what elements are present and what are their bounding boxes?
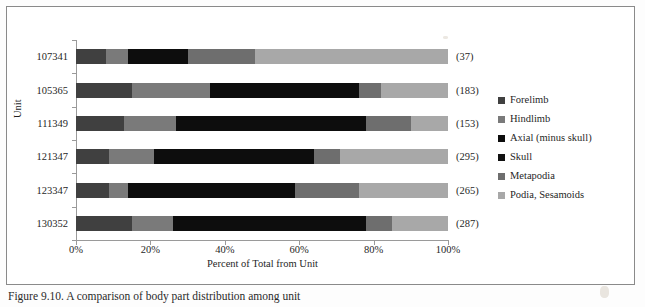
bar-count-label: (265)	[456, 185, 479, 196]
bar-segment[interactable]	[255, 49, 448, 64]
bar-segment[interactable]	[366, 116, 411, 131]
bar-segment[interactable]	[359, 83, 381, 98]
scan-artifact	[600, 286, 609, 298]
bar-segment[interactable]	[359, 183, 448, 198]
bar-count-label: (37)	[456, 51, 474, 62]
legend-item[interactable]: Hindlimb	[498, 113, 636, 125]
bar-segment[interactable]	[109, 149, 154, 164]
figure-page: 107341105365111349121347123347130352 (37…	[0, 0, 645, 307]
legend-label: Skull	[510, 151, 532, 163]
x-axis-tick-label: 100%	[426, 244, 470, 255]
bar-count-label: (183)	[456, 85, 479, 96]
y-axis-label: 111349	[0, 118, 68, 129]
legend-label: Axial (minus skull)	[510, 132, 592, 144]
bar-row	[76, 149, 448, 164]
y-axis-label: 130352	[0, 218, 68, 229]
bar-segment[interactable]	[124, 116, 176, 131]
y-axis-label: 123347	[0, 185, 68, 196]
bar-row	[76, 183, 448, 198]
bar-segment[interactable]	[411, 116, 448, 131]
bar-segment[interactable]	[366, 216, 392, 231]
bar-row	[76, 116, 448, 131]
bar-segment[interactable]	[132, 83, 210, 98]
chart-legend: ForelimbHindlimbAxial (minus skull)Skull…	[498, 94, 636, 208]
bar-row	[76, 216, 448, 231]
legend-swatch-icon	[498, 116, 505, 123]
bar-segment[interactable]	[106, 49, 128, 64]
legend-swatch-icon	[498, 192, 505, 199]
bar-row	[76, 83, 448, 98]
bar-segment[interactable]	[76, 116, 124, 131]
legend-item[interactable]: Skull	[498, 151, 636, 163]
legend-swatch-icon	[498, 135, 505, 142]
x-axis-title: Percent of Total from Unit	[76, 258, 449, 269]
bar-segment[interactable]	[188, 49, 255, 64]
bar-segment[interactable]	[210, 83, 359, 98]
bar-row	[76, 49, 448, 64]
legend-item[interactable]: Metapodia	[498, 170, 636, 182]
bar-segment[interactable]	[76, 83, 132, 98]
y-axis-label: 121347	[0, 151, 68, 162]
y-axis-label: 105365	[0, 85, 68, 96]
legend-item[interactable]: Podia, Sesamoids	[498, 189, 636, 201]
bar-segment[interactable]	[76, 183, 109, 198]
legend-label: Podia, Sesamoids	[510, 189, 584, 201]
bar-segment[interactable]	[340, 149, 448, 164]
x-axis-tick-label: 0%	[54, 244, 98, 255]
bar-count-label: (287)	[456, 218, 479, 229]
figure-caption: Figure 9.10. A comparison of body part d…	[8, 290, 628, 303]
legend-swatch-icon	[498, 154, 505, 161]
x-axis-tick-label: 60%	[277, 244, 321, 255]
bar-count-label: (295)	[456, 151, 479, 162]
bar-segment[interactable]	[76, 49, 106, 64]
scan-artifact	[443, 36, 448, 39]
bar-segment[interactable]	[128, 49, 188, 64]
bar-segment[interactable]	[132, 216, 173, 231]
bar-segment[interactable]	[392, 216, 448, 231]
legend-label: Hindlimb	[510, 113, 550, 125]
bar-segment[interactable]	[76, 149, 109, 164]
bar-segment[interactable]	[176, 116, 366, 131]
x-axis-tick-label: 40%	[203, 244, 247, 255]
legend-item[interactable]: Forelimb	[498, 94, 636, 106]
bar-segment[interactable]	[154, 149, 314, 164]
legend-swatch-icon	[498, 97, 505, 104]
y-axis-title: Unit	[12, 99, 23, 118]
bar-segment[interactable]	[109, 183, 128, 198]
bar-segment[interactable]	[76, 216, 132, 231]
y-axis-label: 107341	[0, 51, 68, 62]
legend-item[interactable]: Axial (minus skull)	[498, 132, 636, 144]
legend-label: Metapodia	[510, 170, 555, 182]
x-axis-tick-label: 80%	[352, 244, 396, 255]
bar-segment[interactable]	[381, 83, 448, 98]
x-axis-line	[76, 240, 449, 241]
bar-segment[interactable]	[314, 149, 340, 164]
legend-label: Forelimb	[510, 94, 549, 106]
x-axis-tick-label: 20%	[128, 244, 172, 255]
bar-segment[interactable]	[173, 216, 366, 231]
bar-segment[interactable]	[128, 183, 295, 198]
stacked-bar-plot	[76, 40, 448, 240]
bar-count-label: (153)	[456, 118, 479, 129]
legend-swatch-icon	[498, 173, 505, 180]
bar-segment[interactable]	[295, 183, 358, 198]
